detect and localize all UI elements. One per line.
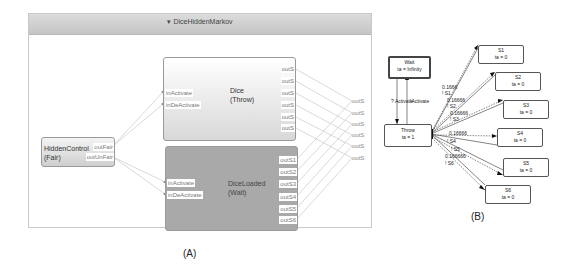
state-throw-name: Throw <box>385 127 431 134</box>
hidden-control-block[interactable]: HiddenControl (Fair) outFair outUnFair <box>41 137 115 167</box>
state-s3-name: S3 <box>504 102 548 109</box>
external-output-4[interactable]: outS <box>352 131 364 139</box>
dice-output-3[interactable]: outS <box>281 89 295 97</box>
dice-output-1[interactable]: outS <box>281 65 295 73</box>
external-output-6[interactable]: outS <box>352 154 364 162</box>
state-wait-ta: ta = Infinity <box>390 66 429 73</box>
state-throw: Throw ta = 1 <box>384 124 432 147</box>
dice-subtitle: (Throw) <box>230 95 254 104</box>
hidden-control-output-fair[interactable]: outFair <box>93 143 114 151</box>
dice-output-5[interactable]: outS <box>281 113 295 121</box>
dice-block[interactable]: Dice (Throw) inActivate inDeActivate out… <box>163 57 296 141</box>
edge-label-o1: ! S1 <box>442 90 451 96</box>
dice-output-6[interactable]: outS <box>281 124 295 132</box>
dice-loaded-output-s2[interactable]: outS2 <box>279 168 297 176</box>
state-wait-name: Wait <box>390 59 429 66</box>
external-output-2[interactable]: outS <box>352 109 364 117</box>
dice-loaded-name: DiceLoaded <box>228 179 265 188</box>
state-throw-ta: ta = 1 <box>385 134 431 141</box>
edge-label-o6: ! S6 <box>445 160 454 166</box>
state-s5-ta: ta = 0 <box>504 167 548 174</box>
state-s5: S5 ta = 0 <box>503 158 549 177</box>
state-s6-name: S6 <box>486 187 530 194</box>
dice-loaded-subtitle: (Wait) <box>228 188 246 197</box>
state-s5-name: S5 <box>504 160 548 167</box>
state-s1-name: S1 <box>479 47 523 54</box>
state-s2-ta: ta = 0 <box>496 81 540 88</box>
hidden-control-name: HiddenControl <box>44 144 89 153</box>
external-output-3[interactable]: outS <box>352 120 364 128</box>
dice-output-2[interactable]: outS <box>281 77 295 85</box>
caption-b: (B) <box>471 211 484 222</box>
dice-loaded-input-deactivate[interactable]: inDeActivate <box>167 191 203 199</box>
state-s6: S6 ta = 0 <box>485 185 531 204</box>
edge-label-p4: 0.16666 <box>449 130 467 136</box>
edge-label-activate-out: !Activate <box>410 98 429 104</box>
state-wait: Wait ta = Infinity <box>388 56 431 79</box>
external-output-5[interactable]: outS <box>352 142 364 150</box>
dice-loaded-output-s4[interactable]: outS4 <box>279 193 297 201</box>
edge-label-o4: ! S4 <box>447 138 456 144</box>
hidden-control-subtitle: (Fair) <box>44 153 61 162</box>
dice-input-deactivate[interactable]: inDeActivate <box>165 101 201 109</box>
state-s4-ta: ta = 0 <box>498 137 542 144</box>
state-s3-ta: ta = 0 <box>504 109 548 116</box>
state-s1: S1 ta = 0 <box>478 45 524 64</box>
state-s6-ta: ta = 0 <box>486 194 530 201</box>
dice-output-4[interactable]: outS <box>281 101 295 109</box>
state-s4: S4 ta = 0 <box>497 128 543 147</box>
dice-loaded-output-s1[interactable]: outS1 <box>279 156 297 164</box>
dice-name: Dice <box>230 86 244 95</box>
state-s1-ta: ta = 0 <box>479 54 523 61</box>
state-s4-name: S4 <box>498 130 542 137</box>
edge-label-o3: ! S3 <box>450 116 459 122</box>
edge-label-o5: ! S5 <box>451 146 460 152</box>
dice-input-activate[interactable]: inActivate <box>165 89 193 97</box>
caption-a: (A) <box>183 248 196 259</box>
external-output-1[interactable]: outS <box>352 97 364 105</box>
state-s3: S3 ta = 0 <box>503 100 549 119</box>
edge-label-p6: 0.166666 <box>445 153 466 159</box>
dice-loaded-input-activate[interactable]: inActivate <box>167 179 195 187</box>
edge-label-o2: ! S2 <box>447 103 456 109</box>
dice-loaded-output-s5[interactable]: outS5 <box>279 205 297 213</box>
state-s2: S2 ta = 0 <box>495 72 541 91</box>
hidden-control-output-unfair[interactable]: outUnFair <box>86 153 114 161</box>
dice-loaded-block[interactable]: DiceLoaded (Wait) inActivate inDeActivat… <box>165 146 298 231</box>
dice-loaded-output-s3[interactable]: outS3 <box>279 180 297 188</box>
state-s2-name: S2 <box>496 74 540 81</box>
dice-loaded-output-s6[interactable]: outS6 <box>279 216 297 224</box>
